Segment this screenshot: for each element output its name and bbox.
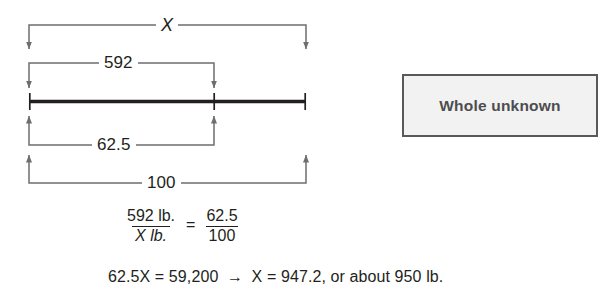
left-fraction: 592 lb. X lb. bbox=[124, 208, 178, 245]
solution-lhs: 62.5X = 59,200 bbox=[108, 268, 218, 285]
whole-unknown-callout: Whole unknown bbox=[402, 74, 598, 137]
dimension-label-part-bottom: 62.5 bbox=[92, 136, 136, 153]
tape-bar bbox=[29, 93, 306, 110]
solution-rhs: X = 947.2, or about 950 lb. bbox=[252, 268, 444, 285]
tape-diagram: X 592 62.5 100 bbox=[0, 0, 340, 200]
right-fraction: 62.5 100 bbox=[203, 208, 240, 245]
right-numerator: 62.5 bbox=[203, 208, 240, 226]
dimension-label-part-top: 592 bbox=[99, 54, 138, 71]
right-arrow-icon: → bbox=[223, 268, 247, 286]
solution-line: 62.5X = 59,200 → X = 947.2, or about 950… bbox=[108, 268, 443, 286]
equals-sign: = bbox=[186, 217, 195, 235]
proportion-equation: 592 lb. X lb. = 62.5 100 bbox=[124, 208, 241, 245]
dimension-label-total-top: X bbox=[156, 16, 178, 34]
worked-example-figure: X 592 62.5 100 Whole unknown 592 lb. X l… bbox=[0, 0, 615, 302]
right-denominator: 100 bbox=[206, 226, 239, 245]
left-numerator: 592 lb. bbox=[124, 208, 178, 226]
left-denominator: X lb. bbox=[132, 226, 170, 245]
dimension-label-total-bottom: 100 bbox=[142, 174, 181, 191]
whole-unknown-label: Whole unknown bbox=[439, 97, 560, 115]
